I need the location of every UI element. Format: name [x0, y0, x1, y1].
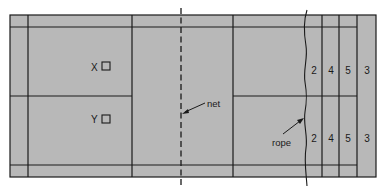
- zone-upper-4: 3: [364, 65, 370, 76]
- net-label: net: [207, 98, 221, 109]
- zone-lower-1: 2: [311, 133, 317, 144]
- zone-upper-2: 4: [328, 65, 334, 76]
- zone-lower-3: 5: [345, 133, 351, 144]
- zone-lower-4: 3: [364, 133, 370, 144]
- position-x-label: X: [91, 62, 98, 73]
- position-y-label: Y: [91, 114, 98, 125]
- zone-upper-1: 2: [311, 65, 317, 76]
- zone-upper-3: 5: [345, 65, 351, 76]
- court-diagram: X Y net rope 2 4 5 3 2 4 5 3: [0, 0, 381, 190]
- rope-label: rope: [272, 137, 291, 148]
- zone-lower-2: 4: [328, 133, 334, 144]
